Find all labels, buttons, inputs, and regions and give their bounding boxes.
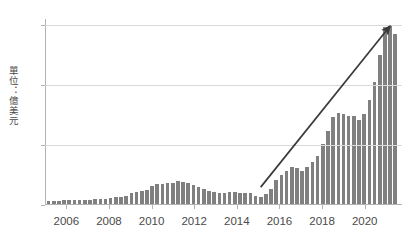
bar (52, 201, 56, 204)
bar (186, 183, 190, 204)
bar (280, 175, 284, 204)
bar (192, 185, 196, 204)
bar (83, 200, 87, 204)
bar (124, 196, 128, 204)
bar (316, 156, 320, 204)
bar-series (45, 19, 402, 204)
x-tick-label: 2006 (44, 216, 88, 228)
bar (269, 189, 273, 204)
bar (218, 193, 222, 204)
bar (274, 180, 278, 204)
bar (393, 34, 397, 204)
bar (388, 25, 392, 204)
bar (243, 193, 247, 204)
bar (202, 189, 206, 204)
x-tick-label: 2008 (87, 216, 131, 228)
x-tick-mark (365, 205, 366, 209)
bar (383, 27, 387, 204)
x-tick-mark (66, 205, 67, 209)
bar-chart: 單位：億美元 010020030020062008201020122014201… (0, 0, 410, 239)
bar (73, 200, 77, 204)
x-tick-mark (152, 205, 153, 209)
bar (290, 167, 294, 204)
bar (161, 184, 165, 204)
bar (342, 114, 346, 204)
bar (130, 193, 134, 204)
bar (78, 200, 82, 204)
bar (119, 197, 123, 204)
y-tick-mark (41, 145, 45, 146)
x-tick-label: 2016 (257, 216, 301, 228)
bar (373, 82, 377, 204)
bar (249, 193, 253, 204)
bar (228, 192, 232, 204)
gridline (45, 145, 402, 146)
bar (88, 200, 92, 204)
bar (311, 162, 315, 204)
bar (212, 192, 216, 204)
bar (305, 167, 309, 204)
x-tick-label: 2020 (343, 216, 387, 228)
x-tick-mark (109, 205, 110, 209)
y-tick-mark (41, 85, 45, 86)
x-tick-label: 2010 (130, 216, 174, 228)
bar (47, 201, 51, 204)
y-axis-label: 單位：億美元 (4, 66, 18, 126)
bar (347, 116, 351, 204)
x-axis-line (45, 204, 402, 205)
bar (99, 199, 103, 204)
bar (207, 191, 211, 204)
bar (223, 193, 227, 204)
x-tick-mark (322, 205, 323, 209)
gridline (45, 25, 402, 26)
bar (166, 183, 170, 204)
bar (145, 190, 149, 204)
bar (140, 191, 144, 204)
bar (109, 198, 113, 204)
bar (57, 201, 61, 204)
x-tick-label: 2012 (172, 216, 216, 228)
bar (135, 192, 139, 204)
bar (181, 182, 185, 204)
bar (337, 113, 341, 204)
bar (352, 116, 356, 204)
plot-area: 0100200300200620082010201220142016201820… (45, 19, 402, 205)
bar (264, 194, 268, 204)
bar (254, 196, 258, 204)
y-tick-mark (41, 205, 45, 206)
bar (67, 200, 71, 204)
bar (176, 181, 180, 204)
x-tick-mark (279, 205, 280, 209)
bar (197, 187, 201, 204)
gridline (45, 85, 402, 86)
bar (238, 193, 242, 204)
bar (150, 186, 154, 204)
bar (233, 192, 237, 204)
y-tick-mark (41, 25, 45, 26)
bar (326, 131, 330, 204)
bar (295, 168, 299, 204)
x-tick-label: 2014 (215, 216, 259, 228)
bar (171, 183, 175, 204)
bar (104, 199, 108, 204)
bar (259, 197, 263, 204)
bar (362, 114, 366, 204)
bar (321, 144, 325, 204)
x-tick-mark (237, 205, 238, 209)
bar (93, 199, 97, 204)
x-tick-label: 2018 (300, 216, 344, 228)
bar (331, 117, 335, 204)
bar (357, 120, 361, 204)
bar (155, 184, 159, 204)
bar (378, 55, 382, 204)
bar (285, 171, 289, 204)
bar (114, 197, 118, 204)
bar (368, 100, 372, 204)
bar (300, 171, 304, 204)
x-tick-mark (194, 205, 195, 209)
chart-title (60, 0, 360, 4)
bar (62, 200, 66, 204)
